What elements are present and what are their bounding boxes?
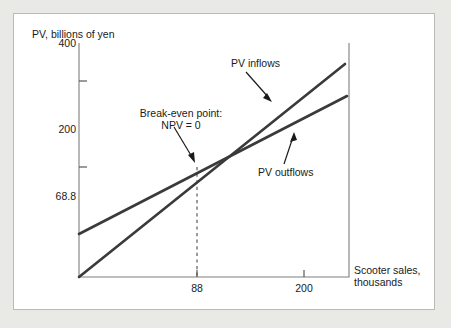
x-tick-marks [197, 270, 304, 277]
y-tick-label-68-8: 68.8 [28, 190, 76, 202]
pv-inflows-arrow-icon [246, 72, 272, 102]
y-tick-marks [79, 81, 87, 167]
pv-outflows-arrow-icon [284, 132, 297, 164]
break-even-label: Break-even point:NPV = 0 [121, 107, 241, 132]
plot-frame [79, 43, 349, 277]
break-even-arrow-icon [174, 127, 195, 163]
x-tick-label-88: 88 [175, 282, 219, 294]
break-even-label-line-1: Break-even point: [140, 107, 222, 119]
y-tick-label-200: 200 [32, 123, 76, 135]
pv-outflows-label: PV outflows [258, 166, 313, 178]
pv-inflows-label: PV inflows [231, 57, 280, 69]
y-tick-label-400: 400 [32, 37, 76, 49]
x-axis-title: Scooter sales, thousands [354, 264, 421, 289]
chart-plot-area: PV, billions of yen 400 200 68.8 88 200 … [14, 14, 436, 311]
x-tick-label-200: 200 [282, 282, 326, 294]
figure-card: PV, billions of yen 400 200 68.8 88 200 … [13, 13, 435, 310]
break-even-label-line-2: NPV = 0 [161, 119, 200, 131]
